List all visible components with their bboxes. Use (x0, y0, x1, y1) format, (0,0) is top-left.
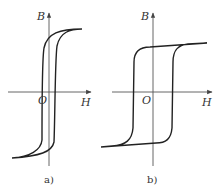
caption-b: b) (147, 174, 157, 185)
panel-b: B O H b) (101, 10, 212, 185)
origin-label-a: O (38, 94, 47, 107)
caption-a: a) (44, 174, 54, 185)
h-axis-label-b: H (201, 96, 212, 109)
hysteresis-loop-b (101, 43, 207, 147)
origin-label-b: O (142, 94, 151, 107)
hysteresis-figure: B O H a) B O H b) (0, 0, 218, 196)
h-axis-label-a: H (80, 96, 91, 109)
panel-a: B O H a) (8, 10, 91, 185)
b-axis-label-a: B (36, 10, 45, 23)
b-axis-label-b: B (140, 10, 149, 23)
